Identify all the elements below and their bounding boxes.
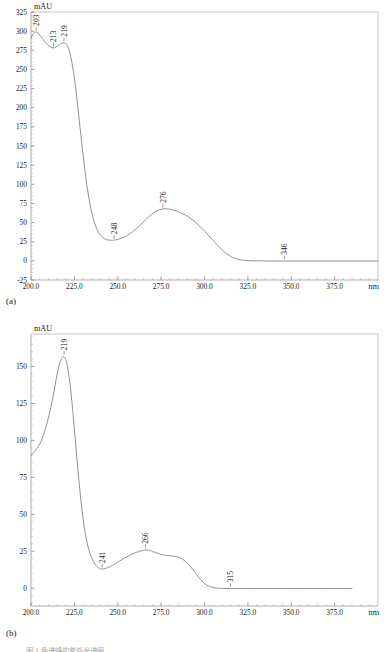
y-tick-label: 150	[16, 362, 27, 371]
x-tick-label: 200.0	[23, 608, 40, 617]
y-tick-label: 150	[16, 142, 27, 151]
y-tick-label: 250	[16, 65, 27, 74]
y-tick-label: 0	[23, 256, 27, 265]
peak-label: 219	[60, 339, 69, 351]
panel-b-caption: (b)	[6, 628, 17, 638]
uv-spectrum-panel-a: 200.0225.0250.0275.0300.0325.0350.0375.0…	[0, 0, 389, 320]
y-tick-label: 25	[20, 547, 28, 556]
uv-spectrum-panel-b: 200.0225.0250.0275.0300.0325.0350.0375.0…	[0, 320, 389, 652]
y-axis-title: mAU	[34, 324, 52, 333]
y-tick-label: 300	[16, 27, 27, 36]
y-tick-label: 25	[20, 237, 28, 246]
spectrum-curve	[31, 32, 378, 261]
x-tick-label: 325.0	[240, 282, 257, 291]
spectrum-curve	[31, 357, 352, 589]
figure-caption: 图 1 色谱峰的紫外光谱图	[26, 645, 386, 652]
x-tick-label: 300.0	[196, 282, 213, 291]
y-tick-label: 225	[16, 84, 27, 93]
x-tick-label: 250.0	[109, 608, 126, 617]
peak-label: 315	[226, 571, 235, 583]
x-tick-label: 225.0	[66, 282, 83, 291]
x-tick-label: 275.0	[153, 282, 170, 291]
y-tick-label: -25	[17, 276, 27, 285]
peak-label: 266	[141, 532, 150, 544]
x-axis-title: nm	[369, 608, 380, 617]
y-tick-label: 125	[16, 161, 27, 170]
peak-label: 248	[110, 223, 119, 235]
x-tick-label: 250.0	[109, 282, 126, 291]
x-tick-label: 225.0	[66, 608, 83, 617]
x-tick-label: 375.0	[326, 608, 343, 617]
y-tick-label: 50	[20, 218, 28, 227]
y-tick-label: 175	[16, 122, 27, 131]
y-tick-label: 0	[23, 584, 27, 593]
y-tick-label: 200	[16, 103, 27, 112]
peak-label: 346	[280, 243, 289, 255]
x-tick-label: 275.0	[153, 608, 170, 617]
y-tick-label: 75	[20, 473, 28, 482]
peak-label: 241	[98, 551, 107, 563]
y-tick-label: 75	[20, 199, 28, 208]
spectrum-chart-b: 200.0225.0250.0275.0300.0325.0350.0375.0…	[0, 320, 389, 652]
x-axis-title: nm	[369, 282, 380, 291]
y-tick-label: 100	[16, 436, 27, 445]
y-tick-label: 325	[16, 8, 27, 17]
spectrum-chart-a: 200.0225.0250.0275.0300.0325.0350.0375.0…	[0, 0, 389, 320]
peak-label: 213	[49, 30, 58, 42]
y-tick-label: 100	[16, 180, 27, 189]
x-tick-label: 300.0	[196, 608, 213, 617]
x-tick-label: 350.0	[283, 608, 300, 617]
x-tick-label: 375.0	[326, 282, 343, 291]
x-tick-label: 325.0	[240, 608, 257, 617]
peak-label: 219	[60, 25, 69, 37]
peak-label: 203	[32, 14, 41, 26]
x-tick-label: 350.0	[283, 282, 300, 291]
y-tick-label: 125	[16, 399, 27, 408]
y-tick-label: 275	[16, 46, 27, 55]
y-axis-title: mAU	[34, 2, 52, 11]
y-tick-label: 50	[20, 510, 28, 519]
peak-label: 276	[159, 191, 168, 203]
panel-a-caption: (a)	[6, 296, 16, 306]
